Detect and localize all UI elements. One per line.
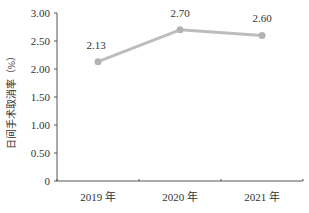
y-tick-label: 1.50	[31, 91, 51, 103]
y-tick-label: 2.00	[31, 63, 51, 75]
y-axis: 00.501.001.502.002.503.00	[31, 7, 57, 187]
y-axis-label: 日间手术取消率（%）	[5, 51, 17, 149]
data-value-label: 2.60	[252, 12, 272, 24]
data-point-marker	[95, 58, 102, 65]
data-value-label: 2.70	[170, 7, 190, 19]
y-tick-label: 0	[45, 175, 51, 187]
y-axis-title: 日间手术取消率（%）	[5, 51, 17, 149]
series-polyline	[98, 30, 262, 62]
y-tick-label: 0.50	[31, 147, 51, 159]
data-point-marker	[259, 32, 266, 39]
x-category-label: 2021 年	[244, 190, 280, 203]
x-category-label: 2019 年	[80, 190, 116, 203]
line-chart: 日间手术取消率（%） 00.501.001.502.002.503.00 201…	[0, 0, 309, 213]
y-tick-label: 3.00	[31, 7, 51, 19]
y-tick-label: 1.00	[31, 119, 51, 131]
x-axis: 2019 年2020 年2021 年	[57, 179, 303, 203]
y-tick-label: 2.50	[31, 35, 51, 47]
x-category-label: 2020 年	[162, 190, 198, 203]
data-value-label: 2.13	[86, 39, 106, 51]
data-point-marker	[177, 26, 184, 33]
series-line	[95, 26, 266, 65]
